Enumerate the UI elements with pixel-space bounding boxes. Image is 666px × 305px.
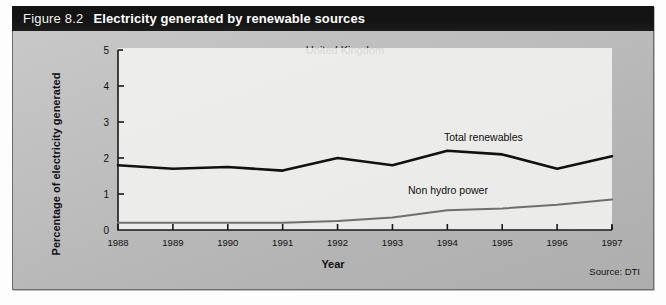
y-axis-label-container: Percentage of electricity generated <box>22 38 48 234</box>
source-note: Source: DTI <box>589 266 640 277</box>
series-label-total-renewables: Total renewables <box>444 131 523 143</box>
figure-number: Figure 8.2 <box>23 11 84 26</box>
chart-subtitle: United Kingdom <box>0 44 666 56</box>
y-axis-label: Percentage of electricity generated <box>50 64 62 264</box>
figure-panel: Figure 8.2 Electricity generated by rene… <box>0 0 666 305</box>
figure-title-banner: Figure 8.2 Electricity generated by rene… <box>12 6 654 31</box>
x-axis-label: Year <box>0 258 666 270</box>
figure-title: Electricity generated by renewable sourc… <box>94 11 366 26</box>
chart-subtitle-text: United Kingdom <box>306 44 384 56</box>
series-label-non-hydro-power: Non hydro power <box>408 184 488 196</box>
